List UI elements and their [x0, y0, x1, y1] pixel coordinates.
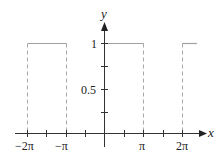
square-wave-chart: y x 1 0.5 −2π −π π 2π [0, 0, 220, 156]
x-tick-label-pi: π [139, 139, 145, 153]
y-axis-label: y [99, 6, 107, 21]
x-axis [15, 130, 201, 137]
x-tick-label-negpi: −π [55, 139, 68, 153]
x-tick-label-2pi: 2π [176, 139, 188, 153]
y-axis-arrow-icon [101, 22, 108, 31]
x-tick-label-neg2pi: −2π [15, 139, 34, 153]
y-tick-label-1: 1 [91, 37, 97, 51]
x-axis-arrow-icon [199, 130, 207, 137]
x-axis-label: x [207, 125, 214, 140]
y-axis [101, 27, 108, 147]
y-tick-label-0.5: 0.5 [81, 83, 96, 97]
